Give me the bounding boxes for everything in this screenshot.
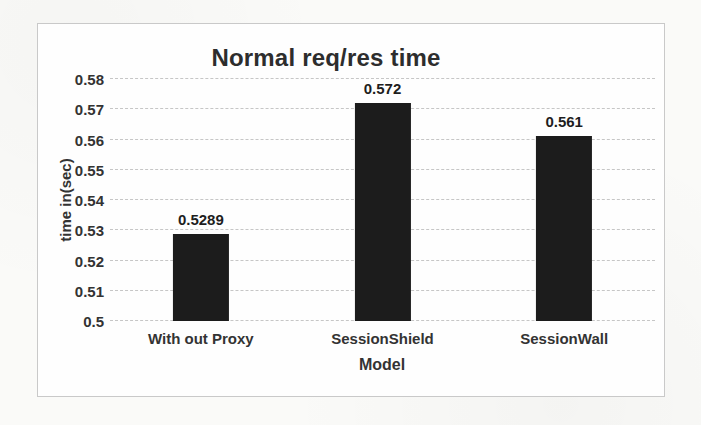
y-tick-label: 0.55 (75, 161, 104, 178)
bar-value-label: 0.561 (545, 113, 583, 130)
plot-area: 0.52890.5720.561 (110, 79, 655, 321)
bar (173, 234, 229, 321)
scanned-page: Normal req/res time time in(sec) 0.50.51… (0, 0, 701, 425)
bar-value-label: 0.5289 (178, 211, 224, 228)
x-category-label: SessionWall (520, 330, 608, 347)
y-tick-label: 0.57 (75, 101, 104, 118)
y-tick-label: 0.5 (83, 313, 104, 330)
y-tick-label: 0.54 (75, 192, 104, 209)
y-axis: 0.50.510.520.530.540.550.560.570.58 (38, 79, 104, 321)
y-tick-label: 0.56 (75, 131, 104, 148)
y-tick-label: 0.51 (75, 282, 104, 299)
x-axis-title: Model (359, 356, 405, 374)
x-category-label: SessionShield (331, 330, 434, 347)
x-category-label: With out Proxy (148, 330, 254, 347)
bar-value-label: 0.572 (364, 80, 402, 97)
bar (536, 136, 592, 321)
y-tick-label: 0.58 (75, 71, 104, 88)
x-axis: With out ProxySessionShieldSessionWall (110, 330, 655, 352)
chart-title: Normal req/res time (211, 44, 440, 72)
y-tick-label: 0.53 (75, 222, 104, 239)
bar-chart: Normal req/res time time in(sec) 0.50.51… (37, 23, 665, 397)
bar (354, 103, 410, 321)
gridline (110, 78, 655, 79)
y-tick-label: 0.52 (75, 252, 104, 269)
